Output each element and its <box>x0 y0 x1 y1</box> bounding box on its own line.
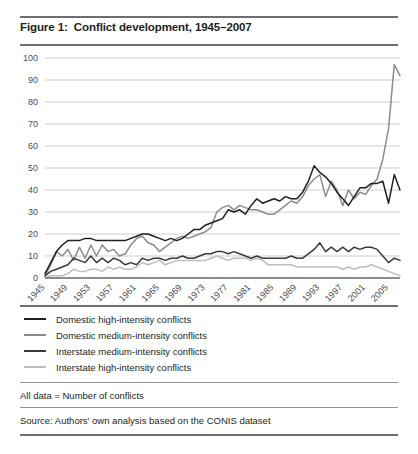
series-line <box>45 256 400 278</box>
y-axis-tick-label: 30 <box>28 207 38 217</box>
x-axis-tick-label: 1977 <box>208 282 229 303</box>
legend-item: Interstate high-intensity conflicts <box>24 359 394 375</box>
x-axis-tick-label: 2005 <box>369 282 390 303</box>
gridlines <box>45 58 400 278</box>
legend-swatch-icon <box>24 318 46 320</box>
chart-note: All data = Number of conflicts <box>20 390 144 401</box>
series-line <box>45 243 400 276</box>
y-axis-tick-label: 90 <box>28 75 38 85</box>
y-axis-tick-label: 100 <box>23 53 38 63</box>
y-axis-tick-label: 10 <box>28 251 38 261</box>
y-axis-tick-label: 70 <box>28 119 38 129</box>
x-axis-tick-label: 1993 <box>300 282 321 303</box>
x-axis-tick-label: 1957 <box>94 282 115 303</box>
figure-container: Figure 1: Conflict development, 1945–200… <box>0 0 418 454</box>
x-axis-tick-labels: 1945194919531957196119651969197319771981… <box>25 282 390 303</box>
legend-item: Domestic high-intensity conflicts <box>24 311 394 327</box>
x-axis-tick-label: 1965 <box>140 282 161 303</box>
chart-plot-area: 0102030405060708090100 19451949195319571… <box>0 48 418 303</box>
legend-item: Interstate medium-intensity conflicts <box>24 343 394 359</box>
y-axis-tick-labels: 0102030405060708090100 <box>23 53 38 283</box>
legend-item-label: Interstate high-intensity conflicts <box>56 362 191 373</box>
legend-rule-top <box>20 305 398 307</box>
x-axis-tick-label: 1945 <box>25 282 46 303</box>
y-axis-tick-label: 20 <box>28 229 38 239</box>
series-line <box>45 65 400 276</box>
y-axis-tick-label: 0 <box>33 273 38 283</box>
x-axis-tick-label: 1981 <box>231 282 252 303</box>
page-title: Figure 1: Conflict development, 1945–200… <box>20 21 252 33</box>
chart-legend: Domestic high-intensity conflicts Domest… <box>24 311 394 375</box>
legend-item: Domestic medium-intensity conflicts <box>24 327 394 343</box>
x-axis-tick-label: 1989 <box>277 282 298 303</box>
x-axis-tick-label: 1961 <box>117 282 138 303</box>
x-axis-tick-label: 1969 <box>163 282 184 303</box>
legend-swatch-icon <box>24 334 46 336</box>
y-axis-tick-label: 40 <box>28 185 38 195</box>
legend-item-label: Interstate medium-intensity conflicts <box>56 346 207 357</box>
source-rule-bottom <box>20 434 398 436</box>
chart-source: Source: Authors' own analysis based on t… <box>20 415 271 426</box>
y-axis-tick-label: 80 <box>28 97 38 107</box>
legend-item-label: Domestic high-intensity conflicts <box>56 314 191 325</box>
x-axis-tick-label: 1949 <box>48 282 69 303</box>
x-axis-tick-label: 2001 <box>346 282 367 303</box>
x-axis-tick-label: 1997 <box>323 282 344 303</box>
legend-item-label: Domestic medium-intensity conflicts <box>56 330 207 341</box>
conflict-line-chart: 0102030405060708090100 19451949195319571… <box>0 48 418 303</box>
note-rule-top <box>20 382 398 383</box>
title-rule-bottom <box>20 44 398 46</box>
x-axis-tick-label: 1953 <box>71 282 92 303</box>
y-axis-tick-label: 50 <box>28 163 38 173</box>
legend-swatch-icon <box>24 350 46 352</box>
source-rule-top <box>20 407 398 408</box>
data-series-lines <box>45 65 400 278</box>
legend-swatch-icon <box>24 366 46 368</box>
x-axis-tick-label: 1973 <box>186 282 207 303</box>
x-axis-tick-label: 1985 <box>254 282 275 303</box>
y-axis-tick-label: 60 <box>28 141 38 151</box>
title-rule-top <box>20 16 398 18</box>
